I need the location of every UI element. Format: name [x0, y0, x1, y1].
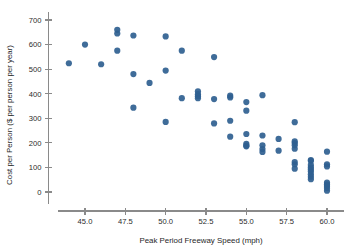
data-point	[114, 30, 120, 36]
data-point	[259, 92, 265, 98]
data-point	[114, 48, 120, 54]
data-point	[276, 136, 282, 142]
x-axis-tick-label: 47.5	[118, 217, 133, 226]
data-point	[130, 105, 136, 111]
x-axis-tick-label: 57.5	[279, 217, 294, 226]
data-point	[259, 132, 265, 138]
data-point	[163, 68, 169, 74]
data-point	[292, 146, 298, 152]
x-axis: 45.047.550.052.555.057.560.0	[58, 208, 344, 227]
scatter-chart: 0100200300400500600700 45.047.550.052.55…	[0, 0, 349, 250]
data-point	[243, 99, 249, 105]
y-axis-tick-label: 500	[29, 65, 42, 74]
data-point	[130, 71, 136, 77]
y-axis-tick-label: 0	[37, 188, 41, 197]
data-point	[243, 131, 249, 137]
data-point	[195, 95, 201, 101]
data-point	[163, 33, 169, 39]
data-point	[243, 108, 249, 114]
y-axis-tick-label: 200	[29, 139, 42, 148]
data-point	[227, 118, 233, 124]
data-point	[292, 119, 298, 125]
data-point	[211, 120, 217, 126]
x-axis-title: Peak Period Freeway Speed (mph)	[139, 236, 263, 245]
data-point	[227, 94, 233, 100]
y-axis-tick-label: 700	[29, 16, 42, 25]
data-point	[324, 163, 330, 169]
y-axis-tick-label: 100	[29, 163, 42, 172]
data-point	[146, 80, 152, 86]
data-point	[163, 119, 169, 125]
x-axis-tick-label: 55.0	[239, 217, 254, 226]
y-axis-title: Cost per Person ($ per person per year)	[5, 45, 14, 185]
x-axis-tick-label: 45.0	[78, 217, 93, 226]
data-point	[243, 143, 249, 149]
data-point	[66, 60, 72, 66]
x-axis-tick-label: 60.0	[320, 217, 335, 226]
data-point	[82, 41, 88, 47]
data-point	[211, 54, 217, 60]
y-axis: 0100200300400500600700	[29, 12, 52, 204]
data-point	[179, 48, 185, 54]
data-point	[276, 148, 282, 154]
data-points-layer	[66, 27, 330, 194]
x-axis-tick-label: 52.5	[199, 217, 214, 226]
data-point	[211, 96, 217, 102]
y-axis-tick-label: 300	[29, 114, 42, 123]
data-point	[98, 61, 104, 67]
data-point	[227, 134, 233, 140]
y-axis-tick-label: 600	[29, 40, 42, 49]
data-point	[292, 166, 298, 172]
chart-canvas: 0100200300400500600700 45.047.550.052.55…	[0, 0, 349, 250]
x-axis-tick-label: 50.0	[158, 217, 173, 226]
data-point	[259, 149, 265, 155]
data-point	[324, 188, 330, 194]
data-point	[179, 95, 185, 101]
data-point	[308, 176, 314, 182]
y-axis-tick-label: 400	[29, 90, 42, 99]
data-point	[324, 149, 330, 155]
data-point	[130, 32, 136, 38]
